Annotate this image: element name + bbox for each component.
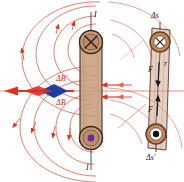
field-arrow-outer-lower	[14, 118, 20, 126]
field-arrow-inner-upper	[72, 23, 74, 30]
label-current-top: I	[94, 11, 97, 19]
field-lines-layer	[0, 0, 184, 182]
label-current-bottom: I	[86, 164, 89, 172]
right-top-element-cross	[150, 32, 170, 52]
right-bottom-element-dot	[146, 124, 166, 144]
label-force-upper: F	[148, 66, 153, 74]
figure-canvas: ΔB′ ΔB I I Δs Δs′ F F r	[0, 0, 184, 182]
dot-out-of-page-icon	[88, 135, 95, 142]
label-delta-s-prime: Δs′	[146, 154, 156, 162]
field-arrow-mid-upper	[56, 26, 58, 34]
resultant-arrowhead	[4, 87, 18, 96]
field-arrow-inner-lower	[69, 128, 70, 138]
label-delta-b: ΔB	[56, 99, 66, 107]
label-delta-s: Δs	[151, 12, 159, 20]
connector-lines	[118, 40, 146, 128]
field-arrow-mid-lower	[53, 126, 55, 136]
top-wire-cross-section	[80, 31, 103, 54]
label-separation-r: r	[164, 60, 167, 68]
bottom-wire-cross-section	[80, 127, 103, 150]
label-delta-b-prime: ΔB′	[56, 75, 67, 83]
label-force-lower: F	[148, 106, 153, 114]
